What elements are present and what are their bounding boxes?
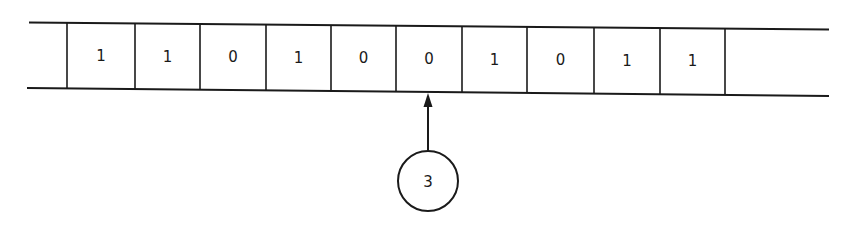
tape-cell-symbol: 1 <box>490 51 500 69</box>
tape-cell-symbol: 0 <box>228 48 238 66</box>
state-label: 3 <box>423 173 433 191</box>
tape-cell-symbol: 1 <box>163 48 173 66</box>
tape-cell-symbol: 1 <box>96 47 106 65</box>
tape-cell-symbol: 1 <box>294 49 304 67</box>
read-head-arrow-icon <box>424 93 433 152</box>
tape-cell-symbol: 1 <box>688 52 698 70</box>
turing-machine-diagram: 1101001011 3 <box>0 0 853 225</box>
tape-cell-symbol: 0 <box>556 51 566 69</box>
tape-cell-symbol: 0 <box>359 49 369 67</box>
tape-cell-symbol: 1 <box>622 52 632 70</box>
tape-top-edge <box>29 23 829 30</box>
tape-cell-symbol: 0 <box>424 50 434 68</box>
head-state: 3 <box>398 151 458 211</box>
